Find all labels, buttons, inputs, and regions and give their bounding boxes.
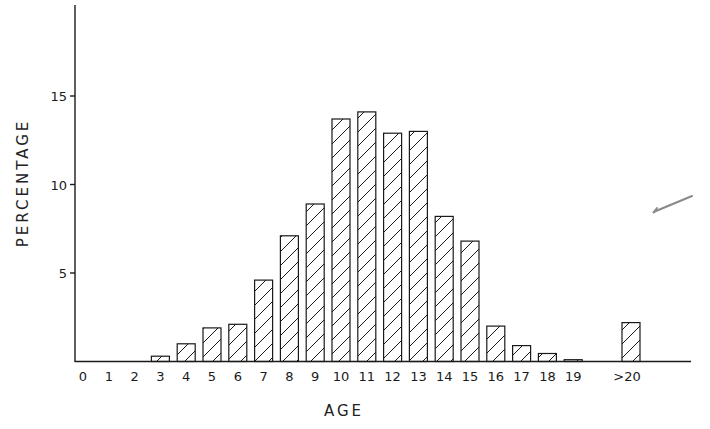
x-tick-label: 0 [79, 369, 87, 384]
x-tick-label: 13 [410, 369, 427, 384]
bar-age-6 [229, 324, 247, 361]
x-tick-label: 3 [156, 369, 164, 384]
x-tick-label: 18 [539, 369, 556, 384]
bar-age-17 [513, 346, 531, 362]
x-tick-label: 16 [488, 369, 505, 384]
bar-age-16 [487, 326, 505, 361]
age-distribution-chart: 51015 012345678910111213141516171819>20 … [0, 0, 710, 429]
bar-age-over-20 [622, 323, 640, 362]
x-axis-tick-labels: 012345678910111213141516171819>20 [79, 369, 641, 384]
x-axis-title: AGE [324, 402, 364, 420]
bar-age-11 [358, 112, 376, 362]
bar-age-4 [177, 344, 195, 362]
x-tick-label: 4 [182, 369, 190, 384]
x-tick-label: 2 [130, 369, 138, 384]
bar-age-3 [151, 356, 169, 361]
x-tick-label: 7 [259, 369, 267, 384]
bar-series [151, 112, 640, 362]
x-tick-label: 1 [105, 369, 113, 384]
x-tick-label: 11 [359, 369, 376, 384]
y-axis-ticks: 51015 [50, 89, 75, 281]
x-tick-label: 8 [285, 369, 293, 384]
bar-age-12 [384, 133, 402, 361]
x-tick-label: 14 [436, 369, 453, 384]
y-tick-label: 15 [50, 89, 67, 104]
x-tick-label: 10 [333, 369, 350, 384]
x-tick-label: 19 [565, 369, 582, 384]
bar-age-15 [461, 241, 479, 361]
bar-age-18 [538, 354, 556, 362]
y-axis-title: PERCENTAGE [14, 119, 32, 247]
x-tick-label: 15 [462, 369, 479, 384]
bar-age-8 [280, 236, 298, 362]
bar-age-9 [306, 204, 324, 362]
pen-check-mark [653, 196, 692, 213]
bar-age-10 [332, 119, 350, 362]
x-tick-label: 5 [208, 369, 216, 384]
bar-age-7 [255, 280, 273, 361]
x-tick-label: 9 [311, 369, 319, 384]
bar-age-5 [203, 328, 221, 362]
bar-age-13 [409, 131, 427, 361]
x-tick-label: >20 [613, 369, 640, 384]
x-tick-label: 17 [513, 369, 530, 384]
y-tick-label: 10 [50, 178, 67, 193]
y-tick-label: 5 [59, 266, 67, 281]
bar-age-14 [435, 216, 453, 361]
x-tick-label: 6 [234, 369, 242, 384]
x-tick-label: 12 [384, 369, 401, 384]
